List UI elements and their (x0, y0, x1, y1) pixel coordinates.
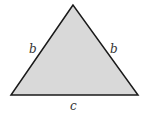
base-label: c (70, 99, 77, 113)
left-side-label: b (29, 42, 37, 56)
isosceles-triangle-diagram: b b c (0, 0, 147, 129)
right-side-label: b (110, 42, 118, 56)
